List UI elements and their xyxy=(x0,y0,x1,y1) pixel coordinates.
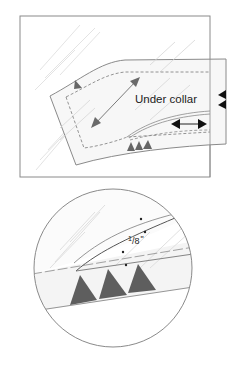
pattern-diagram: Under collar xyxy=(0,0,236,368)
under-collar-label: Under collar xyxy=(135,93,197,105)
top-figure: Under collar xyxy=(20,16,226,177)
detail-figure: 1/8" xyxy=(30,160,200,347)
measurement-frac: /8 xyxy=(132,236,140,246)
measurement-unit: " xyxy=(140,234,143,244)
